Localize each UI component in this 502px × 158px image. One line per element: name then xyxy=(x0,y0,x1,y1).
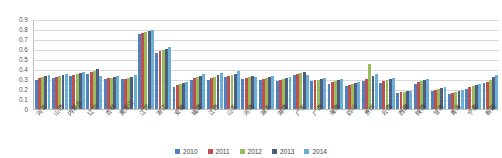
y-axis: 0.90.80.70.60.50.40.30.20.10 xyxy=(0,20,31,110)
legend-swatch-icon xyxy=(240,149,245,154)
x-axis-cell: 河北 xyxy=(33,111,50,143)
legend-item-2013[interactable]: 2013 xyxy=(272,149,294,156)
bar-group xyxy=(464,20,481,109)
x-axis-cell: 陕西 xyxy=(413,111,430,143)
bar-group xyxy=(430,20,447,109)
bar-group xyxy=(120,20,137,109)
bar-2014 xyxy=(202,74,205,109)
legend: 20102011201220132014 xyxy=(0,149,502,156)
x-axis-cell: 云南 xyxy=(378,111,395,143)
bar-2014 xyxy=(185,82,188,109)
bar-2014 xyxy=(220,73,223,109)
x-axis-cell: 内蒙古 xyxy=(68,111,85,143)
bar-group xyxy=(172,20,189,109)
bar-2014 xyxy=(116,76,119,109)
legend-item-2014[interactable]: 2014 xyxy=(304,149,326,156)
bar-group xyxy=(51,20,68,109)
bar-2014 xyxy=(357,82,360,109)
bar-group xyxy=(223,20,240,109)
bar-group xyxy=(396,20,413,109)
bar-2014 xyxy=(271,76,274,109)
x-axis-cell: 湖南 xyxy=(275,111,292,143)
bar-group xyxy=(292,20,309,109)
x-axis-cell: 吉林 xyxy=(102,111,119,143)
x-axis-cell: 浙江 xyxy=(154,111,171,143)
bar-group xyxy=(103,20,120,109)
x-axis-cell: 广西 xyxy=(309,111,326,143)
bar-group xyxy=(344,20,361,109)
y-axis-tick: 0.8 xyxy=(19,27,28,34)
x-axis-cell: 青海 xyxy=(447,111,464,143)
bar-2014 xyxy=(478,84,481,109)
bar-group xyxy=(361,20,378,109)
x-axis: 河北山西内蒙古辽宁吉林黑龙江江苏浙江安徽福建江西山东河南湖北湖南广东广西海南四川… xyxy=(33,111,499,143)
bar-2014 xyxy=(340,79,343,109)
legend-label: 2012 xyxy=(248,149,262,156)
bar-2014 xyxy=(237,71,240,109)
bar-group xyxy=(482,20,499,109)
bar-group xyxy=(310,20,327,109)
bar-2014 xyxy=(392,78,395,109)
bar-group xyxy=(206,20,223,109)
bar-2014 xyxy=(168,47,171,109)
bar-chart: 0.90.80.70.60.50.40.30.20.10 河北山西内蒙古辽宁吉林… xyxy=(0,0,502,158)
x-axis-cell: 山东 xyxy=(223,111,240,143)
bar-group xyxy=(68,20,85,109)
x-axis-cell: 宁夏 xyxy=(465,111,482,143)
legend-swatch-icon xyxy=(304,149,309,154)
y-axis-tick: 0.7 xyxy=(19,37,28,44)
bar-2014 xyxy=(495,75,498,109)
bar-2014 xyxy=(289,77,292,109)
x-axis-cell: 安徽 xyxy=(171,111,188,143)
x-axis-cell: 西藏 xyxy=(396,111,413,143)
x-axis-cell: 江西 xyxy=(206,111,223,143)
x-axis-cell: 海南 xyxy=(327,111,344,143)
x-axis-cell: 黑龙江 xyxy=(119,111,136,143)
x-axis-cell: 辽宁 xyxy=(85,111,102,143)
legend-swatch-icon xyxy=(208,149,213,154)
bar-2014 xyxy=(426,79,429,109)
x-axis-cell: 江苏 xyxy=(137,111,154,143)
legend-item-2012[interactable]: 2012 xyxy=(240,149,262,156)
bar-group xyxy=(413,20,430,109)
y-axis-tick: 0.1 xyxy=(19,97,28,104)
x-axis-cell: 新疆 xyxy=(482,111,499,143)
legend-item-2010[interactable]: 2010 xyxy=(175,149,197,156)
bar-2014 xyxy=(99,76,102,109)
bar-group xyxy=(137,20,154,109)
bar-group xyxy=(155,20,172,109)
bar-2014 xyxy=(375,74,378,109)
y-axis-tick: 0.4 xyxy=(19,67,28,74)
bar-2014 xyxy=(306,75,309,109)
y-axis-tick: 0.9 xyxy=(19,17,28,24)
bar-group xyxy=(189,20,206,109)
bar-group xyxy=(241,20,258,109)
x-axis-cell: 广东 xyxy=(292,111,309,143)
legend-item-2011[interactable]: 2011 xyxy=(208,149,230,156)
y-axis-tick: 0.2 xyxy=(19,87,28,94)
y-axis-tick: 0 xyxy=(24,107,28,114)
bar-2014 xyxy=(254,77,257,109)
x-axis-cell: 甘肃 xyxy=(430,111,447,143)
bar-groups xyxy=(34,20,499,109)
bar-group xyxy=(34,20,51,109)
legend-label: 2013 xyxy=(280,149,294,156)
bar-group xyxy=(327,20,344,109)
bar-group xyxy=(258,20,275,109)
x-axis-cell: 河南 xyxy=(240,111,257,143)
legend-label: 2014 xyxy=(312,149,326,156)
x-axis-cell: 福建 xyxy=(188,111,205,143)
bar-group xyxy=(447,20,464,109)
y-axis-tick: 0.6 xyxy=(19,47,28,54)
x-axis-cell: 湖北 xyxy=(257,111,274,143)
legend-label: 2011 xyxy=(216,149,230,156)
plot-area xyxy=(33,20,499,110)
bar-2014 xyxy=(48,75,51,109)
bar-2014 xyxy=(65,74,68,109)
bar-group xyxy=(275,20,292,109)
bar-2014 xyxy=(151,30,154,109)
bar-2014 xyxy=(323,78,326,109)
legend-label: 2010 xyxy=(183,149,197,156)
x-axis-cell: 山西 xyxy=(50,111,67,143)
y-axis-tick: 0.5 xyxy=(19,57,28,64)
